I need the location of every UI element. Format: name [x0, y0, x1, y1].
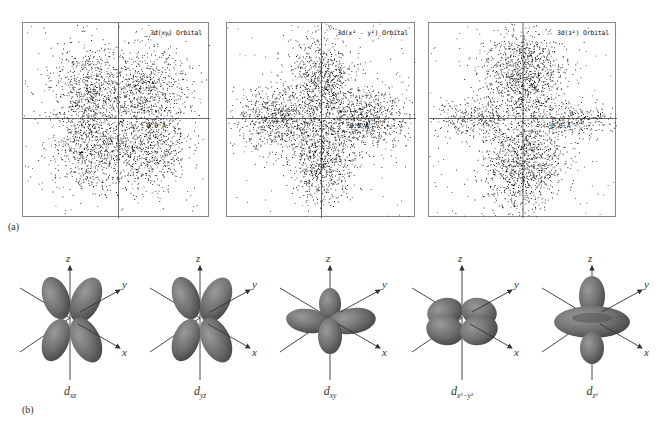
orbital-label-dxy: dxy	[300, 384, 360, 400]
svg-text:z: z	[325, 252, 331, 264]
svg-text:z: z	[587, 252, 593, 264]
part-a-label: (a)	[8, 221, 19, 232]
svg-text:z: z	[457, 252, 463, 264]
svg-text:x: x	[381, 346, 387, 358]
svg-text:z: z	[65, 252, 71, 264]
scale-label: 0.0 Å	[350, 122, 370, 130]
orbital-label-subscript: x²−y²	[457, 391, 473, 400]
orbital-label-dyz: dyz	[170, 384, 230, 400]
orbital-label-subscript: xy	[330, 391, 337, 400]
scale-label: 0.0 Å	[147, 122, 167, 130]
svg-text:y: y	[513, 278, 519, 290]
panel-title: 3d(z²) Orbital	[557, 29, 609, 37]
svg-text:x: x	[251, 346, 257, 358]
svg-text:y: y	[121, 278, 127, 290]
scatter-panel-dz2: 3d(z²) Orbital0.0 Å	[428, 22, 616, 217]
orbital-label-subscript: yz	[200, 391, 206, 400]
orbital-model-dyz: zyxdyz	[135, 250, 265, 404]
scatter-panel-dx2y2: 3d(x² - y²) Orbital0.0 Å	[226, 22, 415, 217]
svg-text:y: y	[381, 278, 387, 290]
svg-text:z: z	[195, 252, 201, 264]
orbital-model-dx2y2: zyxdx²−y²	[397, 250, 527, 404]
svg-text:x: x	[121, 346, 127, 358]
orbital-label-subscript: z²	[592, 391, 597, 400]
probability-density-dots	[24, 25, 210, 214]
orbital-label-dz2: dz²	[562, 384, 622, 400]
svg-text:x: x	[643, 346, 649, 358]
panel-title: 3d(xy) Orbital	[150, 29, 202, 37]
orbital-label-dxz: dxz	[40, 384, 100, 400]
orbital-model-dxy: zyxdxy	[265, 250, 395, 404]
svg-text:y: y	[643, 278, 649, 290]
panel-title: 3d(x² - y²) Orbital	[337, 29, 408, 37]
part-b-label: (b)	[22, 404, 34, 415]
orbital-label-subscript: xz	[70, 391, 76, 400]
svg-text:y: y	[251, 278, 257, 290]
orbital-label-dx2y2: dx²−y²	[432, 384, 492, 400]
scale-label: 0.0 Å	[551, 122, 571, 130]
svg-text:x: x	[513, 346, 519, 358]
orbital-model-dxz: zyxdxz	[5, 250, 135, 404]
orbital-model-dz2: zyxdz²	[527, 250, 657, 404]
scatter-panel-dxy: 3d(xy) Orbital0.0 Å	[22, 22, 209, 217]
